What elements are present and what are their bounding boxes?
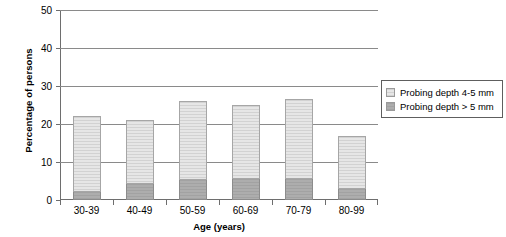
bar-segment-probing-4-5mm[interactable] [338, 136, 366, 189]
bar-segment-probing-4-5mm[interactable] [126, 120, 154, 184]
bar-segment-probing-gt-5mm[interactable] [285, 179, 313, 200]
stacked-bar[interactable] [73, 116, 101, 200]
bar-segment-probing-4-5mm[interactable] [232, 105, 260, 179]
x-tick-label: 70-79 [286, 205, 312, 216]
legend-item: Probing depth > 5 mm [385, 99, 498, 113]
bar-segment-probing-4-5mm[interactable] [179, 101, 207, 180]
stacked-bar[interactable] [232, 105, 260, 200]
bar-group [60, 10, 113, 200]
stacked-bar[interactable] [285, 99, 313, 200]
legend-item-label: Probing depth 4-5 mm [400, 87, 494, 98]
chart-legend: Probing depth 4-5 mm Probing depth > 5 m… [381, 80, 503, 118]
x-tick-label: 50-59 [180, 205, 206, 216]
bar-group [272, 10, 325, 200]
legend-swatch-icon [386, 88, 395, 97]
bar-segment-probing-gt-5mm[interactable] [338, 189, 366, 200]
y-tick-label: 20 [41, 119, 52, 130]
x-axis-title: Age (years) [60, 221, 378, 232]
x-tick-label: 60-69 [233, 205, 259, 216]
bar-segment-probing-gt-5mm[interactable] [232, 179, 260, 200]
stacked-bar[interactable] [126, 120, 154, 200]
x-axis-tick-labels: 30-3940-4950-5960-6970-7980-99 [60, 205, 378, 221]
stacked-bar[interactable] [338, 136, 366, 200]
x-tick-label: 40-49 [127, 205, 153, 216]
y-tick-label: 0 [46, 195, 52, 206]
y-tick-label: 50 [41, 5, 52, 16]
bar-segment-probing-gt-5mm[interactable] [179, 180, 207, 200]
bar-group [219, 10, 272, 200]
y-tick-label: 30 [41, 81, 52, 92]
x-tick-label: 30-39 [74, 205, 100, 216]
bar-group [113, 10, 166, 200]
legend-item: Probing depth 4-5 mm [385, 85, 498, 99]
bar-chart: Percentage of persons 01020304050 30-394… [0, 0, 506, 237]
bar-segment-probing-4-5mm[interactable] [285, 99, 313, 180]
stacked-bar[interactable] [179, 101, 207, 200]
y-tick-label: 10 [41, 157, 52, 168]
legend-swatch-icon [386, 102, 395, 111]
y-axis-tick-labels: 01020304050 [0, 10, 60, 200]
bar-segment-probing-4-5mm[interactable] [73, 116, 101, 192]
y-tick-label: 40 [41, 43, 52, 54]
bar-group [166, 10, 219, 200]
bar-group [325, 10, 378, 200]
plot-area [60, 10, 378, 200]
bar-segment-probing-gt-5mm[interactable] [73, 192, 101, 200]
bar-segment-probing-gt-5mm[interactable] [126, 184, 154, 200]
legend-item-label: Probing depth > 5 mm [400, 101, 494, 112]
x-tick-label: 80-99 [339, 205, 365, 216]
